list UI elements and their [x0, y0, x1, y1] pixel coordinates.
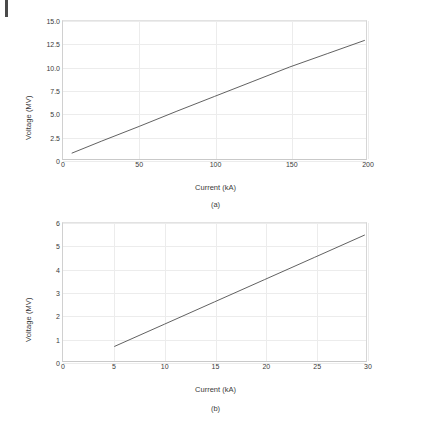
y-axis-label-a: Voltage (MV) [24, 95, 33, 140]
data-line [72, 40, 365, 153]
x-axis-label-b: Current (kA) [0, 385, 431, 394]
y-axis-tick-label: 12.5 [46, 41, 60, 48]
x-axis-tick-label: 10 [161, 363, 169, 370]
gridline-vertical [368, 21, 369, 159]
panel-caption-a: (a) [0, 200, 431, 209]
y-axis-tick-label: 2 [56, 313, 60, 320]
y-axis-tick-label: 0 [56, 360, 60, 367]
y-axis-tick-label: 4 [56, 266, 60, 273]
y-axis-tick-label: 5.0 [50, 111, 60, 118]
data-line [114, 235, 365, 347]
y-axis-tick-label: 3 [56, 290, 60, 297]
x-axis-label-a: Current (kA) [0, 183, 431, 192]
x-axis-tick-label: 200 [362, 161, 374, 168]
y-axis-tick-label: 2.5 [50, 134, 60, 141]
figure-container: Voltage (MV) 02.55.07.510.012.515.005010… [0, 0, 431, 422]
plot-area-b: 0123456051015202530 [62, 222, 367, 362]
y-axis-tick-label: 7.5 [50, 88, 60, 95]
y-axis-tick-label: 10.0 [46, 64, 60, 71]
y-axis-tick-label: 6 [56, 220, 60, 227]
panel-caption-b: (b) [0, 404, 431, 413]
data-series-layer [63, 223, 366, 361]
plot-area-a: 02.55.07.510.012.515.0050100150200 [62, 20, 367, 160]
x-axis-tick-label: 100 [210, 161, 222, 168]
gridline-vertical [368, 223, 369, 361]
y-axis-label-b: Voltage (MV) [24, 297, 33, 342]
x-axis-tick-label: 50 [135, 161, 143, 168]
x-axis-tick-label: 0 [61, 363, 65, 370]
x-axis-tick-label: 15 [212, 363, 220, 370]
data-series-layer [63, 21, 366, 159]
x-axis-tick-label: 30 [364, 363, 372, 370]
chart-panel-b: Voltage (MV) 0123456051015202530 Current… [0, 210, 431, 415]
x-axis-tick-label: 20 [262, 363, 270, 370]
x-axis-tick-label: 5 [112, 363, 116, 370]
chart-panel-a: Voltage (MV) 02.55.07.510.012.515.005010… [0, 8, 431, 208]
y-axis-tick-label: 1 [56, 336, 60, 343]
y-axis-tick-label: 0 [56, 158, 60, 165]
x-axis-tick-label: 25 [313, 363, 321, 370]
y-axis-tick-label: 5 [56, 243, 60, 250]
x-axis-tick-label: 0 [61, 161, 65, 168]
x-axis-tick-label: 150 [286, 161, 298, 168]
y-axis-tick-label: 15.0 [46, 18, 60, 25]
